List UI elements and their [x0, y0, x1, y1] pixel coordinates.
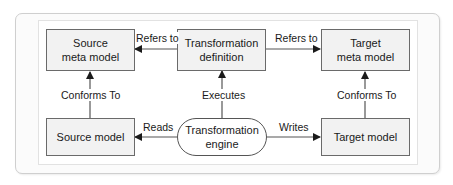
- node-label-line1: Transformation: [185, 124, 259, 136]
- node-label-line2: meta model: [62, 51, 119, 63]
- node-source-model: Source model: [46, 118, 135, 156]
- node-source-meta-model: Source meta model: [46, 29, 135, 71]
- node-transformation-definition: Transformation definition: [177, 29, 266, 71]
- edge-label-conforms-source: Conforms To: [61, 89, 120, 101]
- node-target-model: Target model: [321, 118, 410, 156]
- edge-label-refers-to-source: Refers to: [136, 32, 179, 44]
- edge-label-reads: Reads: [143, 121, 173, 133]
- node-label-line1: Target: [350, 37, 381, 49]
- edge-label-executes: Executes: [202, 89, 245, 101]
- node-label: Source model: [57, 130, 125, 144]
- node-label-line2: meta model: [337, 51, 394, 63]
- node-transformation-engine: Transformation engine: [177, 118, 267, 156]
- node-label-line1: Source: [73, 37, 108, 49]
- node-label: Target model: [334, 130, 398, 144]
- node-label-line2: engine: [205, 138, 238, 150]
- edge-label-conforms-target: Conforms To: [337, 89, 396, 101]
- edge-label-refers-to-target: Refers to: [275, 32, 318, 44]
- node-label-line2: definition: [199, 51, 243, 63]
- edge-label-writes: Writes: [279, 121, 309, 133]
- node-target-meta-model: Target meta model: [321, 29, 410, 71]
- node-label-line1: Transformation: [185, 37, 259, 49]
